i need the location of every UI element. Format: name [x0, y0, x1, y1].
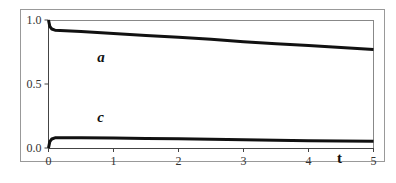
- y-tick-label: 0.5: [27, 77, 42, 91]
- x-tick-label: 1: [111, 154, 117, 168]
- y-tick-label: 0.0: [27, 141, 42, 155]
- x-tick-label: 0: [46, 154, 52, 168]
- x-tick-label: 3: [241, 154, 247, 168]
- y-tick-label: 1.0: [27, 13, 42, 27]
- x-axis-title: t: [337, 150, 342, 166]
- line-chart: 0.00.51.0 012345 a c t: [0, 0, 396, 183]
- x-tick-label: 2: [176, 154, 182, 168]
- x-tick-label: 5: [371, 154, 377, 168]
- x-tick-label: 4: [306, 154, 312, 168]
- series-label-c: c: [97, 109, 104, 125]
- series-label-a: a: [97, 49, 105, 65]
